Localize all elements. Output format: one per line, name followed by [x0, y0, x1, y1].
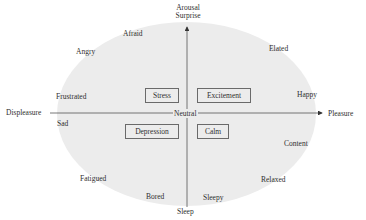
emotion-frustrated: Frustrated: [56, 92, 86, 101]
origin-label-neutral: Neutral: [173, 109, 198, 118]
emotion-bored: Bored: [146, 192, 164, 201]
emotion-fatigued: Fatigued: [80, 174, 106, 183]
emotion-sleepy: Sleepy: [203, 193, 223, 202]
state-box-calm: Calm: [197, 124, 229, 139]
circumplex-diagram: Arousal Surprise Sleep Displeasure Pleas…: [0, 0, 366, 220]
axis-label-surprise: Surprise: [170, 11, 206, 20]
emotion-angry: Angry: [76, 47, 95, 56]
state-box-depression: Depression: [125, 124, 179, 139]
emotion-happy: Happy: [297, 90, 317, 99]
emotion-afraid: Afraid: [123, 29, 143, 38]
emotion-sad: Sad: [57, 119, 68, 128]
axis-label-sleep: Sleep: [177, 207, 194, 216]
emotion-content: Content: [284, 139, 308, 148]
emotion-relaxed: Relaxed: [261, 175, 286, 184]
state-box-stress: Stress: [145, 88, 179, 103]
state-box-excitement: Excitement: [197, 88, 251, 103]
axis-label-displeasure: Displeasure: [6, 108, 41, 117]
emotion-elated: Elated: [269, 44, 288, 53]
axis-label-pleasure: Pleasure: [328, 109, 353, 118]
